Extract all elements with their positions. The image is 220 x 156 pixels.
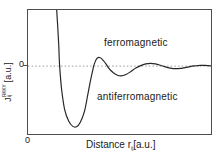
y-axis-symbol-scripts: RKKYij [3,84,13,96]
x-axis-units: [a.u.] [133,139,155,150]
x-axis-label: Distance rij[a.u.] [86,139,156,152]
y-axis-subscript: ij [8,84,13,96]
plot-area [27,9,212,135]
rkky-interaction-figure: JRKKYij[a.u.] 0 ferromagnetic antiferrom… [0,0,220,156]
x-axis-label-text: Distance r [86,139,131,150]
rkky-curve-svg [28,10,211,134]
rkky-curve [57,10,211,127]
ferromagnetic-label: ferromagnetic [104,37,168,48]
y-axis-label: JRKKYij[a.u.] [2,52,14,112]
antiferromagnetic-label: antiferromagnetic [97,91,178,102]
x-axis-origin-label: 0 [25,136,30,146]
y-axis-units: [a.u.] [4,62,13,82]
y-axis-symbol: J [4,97,13,102]
